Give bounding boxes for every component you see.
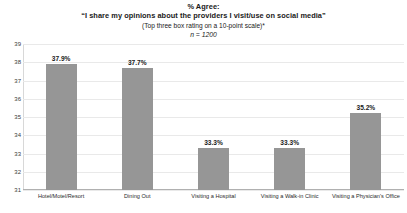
bar-slot: 33.3% [198,44,229,190]
bars-layer: 37.9%37.7%33.3%33.3%35.2% [23,44,404,190]
bar[interactable] [274,148,305,190]
y-axis-tick-label: 34 [5,132,21,138]
y-axis-tick-label: 33 [5,151,21,157]
x-axis-category-label: Visiting a Walk-in Clinic [252,193,328,200]
y-axis-tick-label: 35 [5,114,21,120]
chart-title: % Agree: [0,2,407,11]
chart-sample-size-note: n = 1200 [0,30,407,40]
bar-value-label: 33.3% [280,139,299,146]
bar-slot: 33.3% [274,44,305,190]
x-axis-category-label: Dining Out [99,193,175,200]
bar[interactable] [122,68,153,190]
bar[interactable] [198,148,229,190]
x-axis-category-label: Visiting a Physician's Office [328,193,404,200]
bar-slot: 37.7% [122,44,153,190]
gridline [23,190,404,191]
y-axis-tick-label: 31 [5,187,21,193]
y-axis-tick-label: 39 [5,41,21,47]
y-axis-tick-label: 36 [5,96,21,102]
bar[interactable] [350,113,381,190]
bar-slot: 35.2% [350,44,381,190]
bar-value-label: 35.2% [357,104,376,111]
x-axis-category-labels: Hotel/Motel/ResortDining OutVisiting a H… [23,193,404,209]
x-axis-category-label: Visiting a Hospital [175,193,251,200]
chart-subtitle: (Top three box rating on a 10-point scal… [0,21,407,31]
chart-title-statement: “I share my opinions about the providers… [0,11,407,21]
bar-chart: % Agree: “I share my opinions about the … [0,0,407,213]
y-axis-tick-label: 32 [5,169,21,175]
bar-value-label: 37.9% [52,55,71,62]
chart-title-block: % Agree: “I share my opinions about the … [0,2,407,40]
y-axis-tick-label: 37 [5,78,21,84]
bar-value-label: 33.3% [204,139,223,146]
x-axis-category-label: Hotel/Motel/Resort [23,193,99,200]
y-axis-tick-labels: 393837363534333231 [0,44,21,190]
y-axis-tick-label: 38 [5,59,21,65]
bar-slot: 37.9% [46,44,77,190]
bar-value-label: 37.7% [128,59,147,66]
bar[interactable] [46,64,77,190]
